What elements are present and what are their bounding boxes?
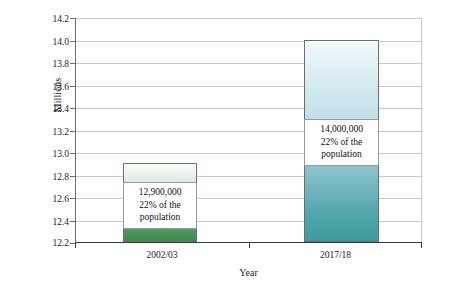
- y-tick-label-13-8: 13.8: [36, 60, 69, 70]
- y-tick-label-12-6: 12.6: [36, 195, 69, 205]
- y-tick-label-14-0: 14.0: [36, 38, 69, 48]
- x-tick-mark: [249, 243, 250, 248]
- plot-area: 12,900,000 22% of the population 14,000,…: [75, 18, 422, 243]
- y-tick-label-12-4: 12.4: [36, 218, 69, 228]
- y-tick-label-12-8: 12.8: [36, 173, 69, 183]
- y-tick-label-12-2: 12.2: [36, 239, 69, 249]
- data-label-2002-03-value: 12,900,000: [129, 186, 191, 199]
- data-label-2017-18: 14,000,000 22% of the population: [304, 119, 379, 166]
- data-label-2002-03-population: population: [129, 211, 191, 224]
- x-axis-title: Year: [75, 267, 422, 278]
- bar-chart: Millions 14.2 14.0 13.8 13.6 13.4 13.2 1…: [0, 0, 456, 287]
- y-tick-label-13-6: 13.6: [36, 83, 69, 93]
- data-label-2017-18-value: 14,000,000: [310, 123, 373, 136]
- y-tick-label-13-4: 13.4: [36, 105, 69, 115]
- y-tick-label-13-2: 13.2: [36, 128, 69, 138]
- gridline-14-2: [76, 18, 422, 19]
- x-tick-mark: [75, 243, 76, 248]
- y-tick-label-14-2: 14.2: [36, 15, 69, 25]
- x-tick-mark: [421, 243, 422, 248]
- data-label-2002-03: 12,900,000 22% of the population: [123, 182, 197, 229]
- data-label-2002-03-percent: 22% of the: [129, 199, 191, 212]
- x-category-label-2017-18: 2017/18: [249, 250, 422, 260]
- data-label-2017-18-percent: 22% of the: [310, 136, 373, 149]
- x-category-label-2002-03: 2002/03: [75, 250, 249, 260]
- data-label-2017-18-population: population: [310, 148, 373, 161]
- y-tick-label-13-0: 13.0: [36, 150, 69, 160]
